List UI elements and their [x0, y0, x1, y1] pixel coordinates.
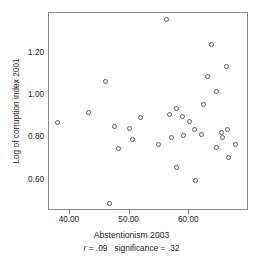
data-point	[192, 127, 197, 132]
data-point	[164, 17, 169, 22]
data-point	[224, 64, 229, 69]
data-point	[116, 146, 121, 151]
x-tick-mark	[69, 210, 70, 214]
x-tick-label: 50.00	[107, 215, 151, 225]
data-point	[199, 132, 204, 137]
data-point	[107, 201, 112, 206]
scatter-plot-figure: Log of corruption index 2001 0.600.801.0…	[0, 0, 263, 264]
data-point	[55, 120, 60, 125]
data-point	[103, 79, 108, 84]
data-point	[174, 165, 179, 170]
data-point	[138, 115, 143, 120]
plot-area	[49, 13, 247, 209]
data-point	[180, 114, 185, 119]
data-point	[167, 112, 172, 117]
data-point	[201, 102, 206, 107]
plot-frame	[48, 12, 248, 210]
data-point	[209, 42, 214, 47]
x-tick-label: 40.00	[47, 215, 91, 225]
data-point	[181, 133, 186, 138]
data-point	[214, 89, 219, 94]
y-tick-label: 0.80	[14, 132, 44, 141]
stat-r-value: = .09	[86, 243, 107, 253]
data-point	[219, 130, 224, 135]
data-point	[86, 110, 91, 115]
data-point	[233, 142, 238, 147]
data-point	[205, 74, 210, 79]
x-axis-title: Abstentionism 2003	[0, 230, 263, 241]
y-tick-label: 0.60	[14, 175, 44, 184]
data-point	[187, 119, 192, 124]
y-tick-label: 1.00	[14, 90, 44, 99]
data-point	[220, 135, 225, 140]
data-point	[214, 145, 219, 150]
y-tick-label: 1.20	[14, 48, 44, 57]
data-point	[112, 124, 117, 129]
data-point	[193, 178, 198, 183]
stat-significance: significance = .32	[115, 243, 180, 253]
data-point	[130, 137, 135, 142]
data-point	[226, 155, 231, 160]
data-point	[127, 126, 132, 131]
data-point	[156, 142, 161, 147]
x-tick-mark	[129, 210, 130, 214]
x-tick-label: 60.00	[166, 215, 210, 225]
data-point	[169, 135, 174, 140]
data-point	[225, 127, 230, 132]
y-axis-ticks: 0.600.801.001.20	[8, 0, 44, 264]
stats-caption: r = .09significance = .32	[0, 243, 263, 254]
x-tick-mark	[188, 210, 189, 214]
data-point	[174, 106, 179, 111]
